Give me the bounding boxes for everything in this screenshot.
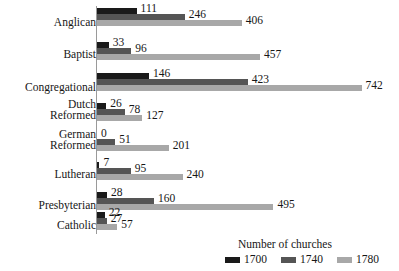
bar: [97, 115, 142, 121]
category-label: German Reformed: [2, 129, 96, 152]
category-label: Lutheran: [2, 169, 96, 181]
bar-value-label: 495: [277, 199, 294, 211]
bar: [97, 145, 169, 151]
bar-value-label: 26: [110, 98, 122, 110]
bar-value-label: 0: [101, 128, 107, 140]
category-label: Baptist: [2, 49, 96, 61]
bar: [97, 204, 273, 210]
legend-label: 1700: [244, 254, 267, 266]
bar-value-label: 246: [189, 9, 206, 21]
plot-area: AnglicanBaptistCongregationalDutch Refor…: [0, 0, 399, 236]
bar-value-label: 111: [141, 3, 157, 15]
category-label: Catholic: [2, 220, 96, 232]
legend-item-1740: 1740: [281, 254, 323, 266]
bar-value-label: 57: [121, 219, 133, 231]
bar-value-label: 127: [146, 110, 163, 122]
bar-value-label: 146: [153, 68, 170, 80]
bar-value-label: 160: [158, 193, 175, 205]
legend-swatch-icon: [281, 257, 296, 263]
category-label: Dutch Reformed: [2, 99, 96, 122]
bar-chart: AnglicanBaptistCongregationalDutch Refor…: [0, 0, 399, 271]
bar-value-label: 78: [129, 104, 141, 116]
bar-value-label: 7: [103, 157, 109, 169]
legend-label: 1740: [300, 254, 323, 266]
legend-swatch-icon: [225, 257, 240, 263]
bar-value-label: 33: [113, 37, 125, 49]
bar-value-label: 201: [173, 140, 190, 152]
bar: [97, 20, 242, 26]
chart-legend: Number of churches 170017401780: [0, 238, 399, 271]
category-label: Congregational: [2, 82, 96, 94]
legend-swatch-icon: [337, 257, 352, 263]
bar: [97, 54, 260, 60]
bar: [97, 85, 362, 91]
legend-title: Number of churches: [238, 238, 332, 250]
bar-value-label: 28: [111, 187, 123, 199]
bar-value-label: 96: [135, 43, 147, 55]
category-label: Presbyterian: [2, 200, 96, 212]
bar: [97, 224, 117, 230]
legend-label: 1780: [356, 254, 379, 266]
legend-items: 170017401780: [225, 254, 379, 266]
bar-value-label: 51: [119, 134, 131, 146]
legend-item-1780: 1780: [337, 254, 379, 266]
bar-value-label: 240: [187, 169, 204, 181]
bar-value-label: 406: [246, 15, 263, 27]
bar: [97, 174, 183, 180]
category-label: Anglican: [2, 17, 96, 29]
bar-value-label: 423: [252, 74, 269, 86]
legend-item-1700: 1700: [225, 254, 267, 266]
bar-value-label: 457: [264, 49, 281, 61]
bar-value-label: 742: [366, 80, 383, 92]
bar-value-label: 95: [135, 163, 147, 175]
